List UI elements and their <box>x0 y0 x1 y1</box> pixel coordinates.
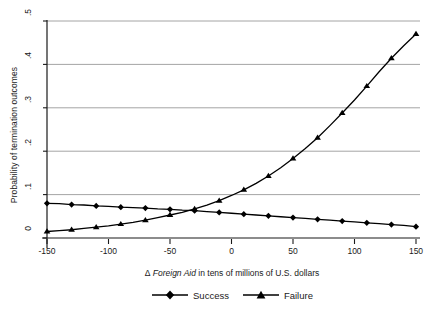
x-tick-label: -150 <box>27 246 67 256</box>
triangle-marker-icon <box>242 289 280 301</box>
gridlines-group <box>47 21 420 195</box>
x-tick-label: 0 <box>212 246 252 256</box>
y-tick-label: 0 <box>23 226 33 248</box>
x-tick-label: 50 <box>273 246 313 256</box>
x-axis-title: Δ Foreign Aid in tens of millions of U.S… <box>47 268 417 278</box>
series-line-success <box>44 200 419 230</box>
diamond-marker-icon <box>151 289 189 301</box>
legend-entry-success: Success <box>151 289 229 301</box>
chart-legend: Success Failure <box>47 289 417 301</box>
chart-plot-area <box>0 0 427 313</box>
x-tick-label: -100 <box>89 246 129 256</box>
series-line-failure <box>44 31 420 234</box>
x-tick-label: 150 <box>396 246 427 256</box>
y-tick-label: .2 <box>23 139 33 161</box>
legend-label-failure: Failure <box>284 290 313 301</box>
y-tick-label: .5 <box>23 9 33 31</box>
y-tick-label: .4 <box>23 52 33 74</box>
y-tick-label: .1 <box>23 183 33 205</box>
chart-figure: Probability of termination outcomes 0.1.… <box>0 0 427 313</box>
x-tick-label: -50 <box>150 246 190 256</box>
x-axis-title-italic: Foreign Aid <box>153 268 196 278</box>
y-axis-title: Probability of termination outcomes <box>9 35 19 235</box>
legend-entry-failure: Failure <box>242 289 313 301</box>
x-tick-label: 100 <box>335 246 375 256</box>
x-axis-title-rest: in tens of millions of U.S. dollars <box>196 268 319 278</box>
legend-label-success: Success <box>193 290 229 301</box>
x-axis-title-delta: Δ <box>145 268 153 278</box>
y-tick-label: .3 <box>23 96 33 118</box>
